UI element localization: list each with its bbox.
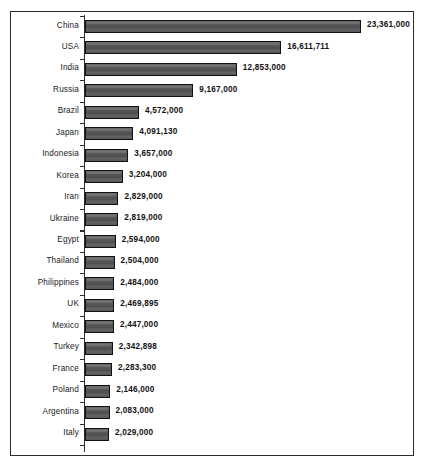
value-label: 2,469,895	[120, 299, 158, 308]
bar	[85, 428, 109, 441]
bar-row: UK2,469,895	[11, 295, 413, 317]
bar-highlight	[87, 344, 111, 346]
bar	[85, 41, 281, 54]
bar-highlight	[87, 279, 112, 281]
bar-highlight	[87, 151, 126, 153]
bar-highlight	[87, 387, 108, 389]
axis-tick	[80, 123, 84, 124]
axis-tick	[80, 273, 84, 274]
bar-row: Philippines2,484,000	[11, 273, 413, 295]
value-label: 12,853,000	[243, 63, 286, 72]
bar	[85, 320, 114, 333]
category-label: Iran	[11, 192, 79, 201]
bar	[85, 213, 118, 226]
bar-row: Russia9,167,000	[11, 80, 413, 102]
category-label: Turkey	[11, 342, 79, 351]
category-label: Italy	[11, 428, 79, 437]
bar-highlight	[87, 215, 116, 217]
axis-tick	[80, 102, 84, 103]
bar	[85, 106, 139, 119]
bar	[85, 149, 128, 162]
category-label: Argentina	[11, 407, 79, 416]
value-label: 2,829,000	[124, 192, 162, 201]
category-label: Egypt	[11, 235, 79, 244]
value-label: 2,146,000	[116, 385, 154, 394]
axis-tick	[80, 252, 84, 253]
category-label: India	[11, 63, 79, 72]
bar-highlight	[87, 172, 121, 174]
axis-tick	[80, 359, 84, 360]
value-label: 3,657,000	[134, 149, 172, 158]
bar-row: Korea3,204,000	[11, 166, 413, 188]
category-label: Russia	[11, 85, 79, 94]
bar-row: USA16,611,711	[11, 37, 413, 59]
bar	[85, 84, 193, 97]
bar-highlight	[87, 194, 116, 196]
value-label: 4,091,130	[139, 127, 177, 136]
axis-tick	[80, 316, 84, 317]
bar-row: Argentina2,083,000	[11, 402, 413, 424]
bar	[85, 170, 123, 183]
bar	[85, 342, 113, 355]
bar	[85, 277, 114, 290]
bar-row: Mexico2,447,000	[11, 316, 413, 338]
bar-highlight	[87, 258, 113, 260]
bar-row: China23,361,000	[11, 16, 413, 38]
value-label: 2,283,300	[118, 363, 156, 372]
bar	[85, 256, 115, 269]
category-label: Poland	[11, 385, 79, 394]
bar-highlight	[87, 43, 279, 45]
bar-row: Japan4,091,130	[11, 123, 413, 145]
bar	[85, 363, 112, 376]
category-label: France	[11, 364, 79, 373]
bar-row: Poland2,146,000	[11, 381, 413, 403]
axis-tick	[80, 295, 84, 296]
bar-highlight	[87, 301, 112, 303]
bar-highlight	[87, 129, 131, 131]
bar	[85, 385, 110, 398]
bar-highlight	[87, 322, 112, 324]
axis-tick	[80, 402, 84, 403]
category-label: UK	[11, 299, 79, 308]
value-label: 2,594,000	[122, 235, 160, 244]
bar-row: Brazil4,572,000	[11, 102, 413, 124]
value-label: 3,204,000	[129, 170, 167, 179]
bar	[85, 406, 110, 419]
value-label: 2,342,898	[119, 342, 157, 351]
value-label: 2,447,000	[120, 320, 158, 329]
bar	[85, 20, 361, 33]
bar	[85, 127, 133, 140]
bar-highlight	[87, 86, 191, 88]
bar-highlight	[87, 430, 107, 432]
bar-highlight	[87, 365, 110, 367]
bar-row: Thailand2,504,000	[11, 252, 413, 274]
category-label: USA	[11, 42, 79, 51]
axis-tick	[80, 37, 84, 38]
axis-tick	[80, 381, 84, 382]
bar-row: Ukraine2,819,000	[11, 209, 413, 231]
axis-tick	[80, 231, 84, 232]
bar-row: Italy2,029,000	[11, 424, 413, 446]
bar-highlight	[87, 237, 114, 239]
category-label: Philippines	[11, 278, 79, 287]
axis-tick	[80, 145, 84, 146]
value-label: 4,572,000	[145, 106, 183, 115]
bar-rows-container: China23,361,000USA16,611,711India12,853,…	[11, 12, 413, 455]
axis-tick	[80, 16, 84, 17]
bar-row: Iran2,829,000	[11, 188, 413, 210]
axis-tick	[80, 445, 84, 446]
category-label: Japan	[11, 128, 79, 137]
axis-tick	[80, 424, 84, 425]
bar-highlight	[87, 108, 137, 110]
axis-tick	[80, 338, 84, 339]
value-label: 2,504,000	[121, 256, 159, 265]
axis-tick	[80, 80, 84, 81]
value-label: 16,611,711	[287, 42, 329, 51]
category-label: China	[11, 21, 79, 30]
category-label: Brazil	[11, 106, 79, 115]
value-label: 2,083,000	[116, 406, 154, 415]
axis-tick	[80, 59, 84, 60]
category-label: Korea	[11, 171, 79, 180]
category-label: Ukraine	[11, 214, 79, 223]
bar	[85, 299, 114, 312]
